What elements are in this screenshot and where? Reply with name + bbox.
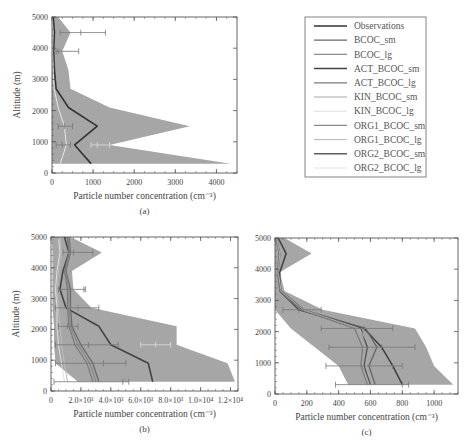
x-tick-label: 600 [364, 399, 376, 408]
legend-label: KIN_BCOC_lg [354, 106, 414, 116]
y-tick-label: 5000 [32, 13, 48, 22]
legend-label: BCOC_lg [354, 50, 392, 60]
legend-label: ORG1_BCOC_lg [354, 135, 422, 145]
panel-caption: (a) [140, 206, 150, 216]
y-tick-label: 4000 [31, 264, 47, 273]
x-tick-label: 400 [333, 399, 345, 408]
chart-panel-c: 01000200030004000500002004006008001000Pa… [255, 234, 458, 437]
y-tick-label: 0 [267, 390, 271, 399]
x-axis-title: Particle number concentration (cm⁻³) [73, 191, 216, 202]
y-axis-title: Altitude (m) [11, 290, 22, 337]
x-tick-label: 0 [49, 396, 53, 405]
y-tick-label: 1000 [31, 356, 47, 365]
y-tick-label: 2000 [255, 328, 271, 337]
x-tick-label: 4000 [208, 178, 224, 187]
x-tick-label: 6.0×10³ [128, 396, 154, 405]
chart-panel-a: 01000200030004000500001000200030004000Pa… [12, 13, 237, 216]
y-tick-label: 5000 [31, 233, 47, 242]
y-tick-label: 3000 [32, 75, 48, 84]
legend-label: ACT_BCOC_sm [354, 64, 420, 74]
panel-caption: (b) [139, 424, 150, 434]
y-tick-label: 2000 [32, 107, 48, 116]
y-tick-label: 4000 [32, 44, 48, 53]
x-tick-label: 3000 [167, 178, 183, 187]
legend-label: ORG1_BCOC_sm [354, 121, 426, 131]
x-tick-label: 4.0×10³ [98, 396, 124, 405]
y-tick-label: 1000 [255, 359, 271, 368]
y-tick-label: 0 [43, 387, 47, 396]
legend-label: BCOC_sm [354, 35, 396, 45]
y-tick-label: 4000 [255, 265, 271, 274]
legend-label: ACT_BCOC_lg [354, 78, 416, 88]
x-tick-label: 1000 [426, 399, 442, 408]
figure-canvas: 01000200030004000500001000200030004000Pa… [0, 0, 468, 447]
chart-panel-b: 01000200030004000500002.0×10³4.0×10³6.0×… [11, 233, 243, 434]
y-tick-label: 3000 [31, 295, 47, 304]
x-tick-label: 1000 [85, 178, 101, 187]
y-tick-label: 3000 [255, 296, 271, 305]
x-tick-label: 800 [396, 399, 408, 408]
panel-caption: (c) [362, 427, 372, 437]
x-axis-title: Particle number concentration (cm⁻³) [295, 412, 438, 423]
x-tick-label: 1.2×10⁴ [218, 396, 244, 405]
x-axis-title: Particle number concentration (cm⁻³) [73, 409, 216, 420]
legend-label: KIN_BCOC_sm [354, 92, 418, 102]
legend-label: Observations [354, 21, 404, 31]
x-tick-label: 0 [50, 178, 54, 187]
y-axis-title: Altitude (m) [12, 71, 23, 118]
legend-label: ORG2_BCOC_sm [354, 149, 426, 159]
legend-label: ORG2_BCOC_lg [354, 163, 422, 173]
y-tick-label: 0 [44, 169, 48, 178]
chart-legend: ObservationsBCOC_smBCOC_lgACT_BCOC_smACT… [305, 17, 426, 177]
y-tick-label: 1000 [32, 138, 48, 147]
y-tick-label: 5000 [255, 234, 271, 243]
y-tick-label: 2000 [31, 325, 47, 334]
x-tick-label: 1.0×10⁴ [188, 396, 214, 405]
x-tick-label: 200 [301, 399, 313, 408]
x-tick-label: 8.0×10³ [158, 396, 184, 405]
x-tick-label: 0 [273, 399, 277, 408]
x-tick-label: 2000 [126, 178, 142, 187]
x-tick-label: 2.0×10³ [68, 396, 94, 405]
